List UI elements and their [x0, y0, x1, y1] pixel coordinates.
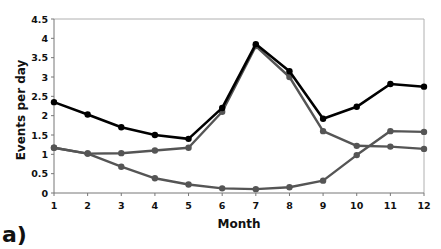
x-tick-label: 11 [384, 200, 397, 211]
y-tick-label: 2.5 [31, 91, 48, 102]
series-gray-b [51, 128, 427, 192]
y-tick-label: 1 [41, 149, 48, 160]
y-tick-label: 0 [41, 188, 48, 199]
y-tick-label: 4.5 [31, 14, 48, 25]
data-point-marker [51, 145, 57, 151]
data-point-marker [253, 186, 259, 192]
y-tick-label: 3 [41, 72, 48, 83]
data-point-marker [354, 104, 360, 110]
data-point-marker [387, 143, 393, 149]
series-black [51, 41, 427, 142]
x-tick-label: 7 [253, 200, 260, 211]
data-point-marker [387, 81, 393, 87]
data-point-marker [152, 175, 158, 181]
series-line [54, 131, 424, 189]
data-point-marker [84, 150, 90, 156]
series-gray-a [51, 43, 427, 157]
data-point-marker [421, 146, 427, 152]
plot-frame [54, 19, 424, 193]
data-point-marker [320, 116, 326, 122]
data-point-marker [219, 185, 225, 191]
data-point-marker [320, 128, 326, 134]
data-point-marker [118, 124, 124, 130]
data-point-marker [84, 111, 90, 117]
data-point-marker [354, 143, 360, 149]
data-point-marker [387, 128, 393, 134]
x-tick-label: 2 [84, 200, 91, 211]
data-point-marker [118, 164, 124, 170]
data-point-marker [421, 129, 427, 135]
data-point-marker [286, 68, 292, 74]
x-tick-label: 1 [51, 200, 58, 211]
data-point-marker [253, 41, 259, 47]
data-point-marker [185, 181, 191, 187]
series-line [54, 44, 424, 139]
data-point-marker [320, 177, 326, 183]
data-point-marker [354, 152, 360, 158]
data-point-marker [286, 184, 292, 190]
x-tick-label: 6 [219, 200, 226, 211]
x-axis-ticks: 123456789101112 [51, 193, 431, 211]
x-tick-label: 4 [152, 200, 159, 211]
y-tick-label: 3.5 [31, 52, 48, 63]
x-axis-title: Month [217, 217, 260, 231]
data-point-marker [51, 99, 57, 105]
y-axis-title: Events per day [14, 59, 28, 160]
x-tick-label: 12 [417, 200, 430, 211]
data-point-marker [152, 147, 158, 153]
x-tick-label: 3 [118, 200, 125, 211]
y-tick-label: 2 [41, 110, 48, 121]
x-tick-label: 10 [350, 200, 364, 211]
y-tick-label: 4 [41, 33, 48, 44]
panel-label: a) [2, 222, 27, 247]
y-tick-label: 1.5 [31, 130, 48, 141]
data-point-marker [421, 83, 427, 89]
line-chart: 00.511.522.533.544.5 123456789101112 Eve… [0, 0, 441, 249]
data-point-marker [185, 136, 191, 142]
x-tick-label: 9 [320, 200, 327, 211]
x-tick-label: 5 [185, 200, 192, 211]
data-point-marker [185, 145, 191, 151]
data-point-marker [219, 105, 225, 111]
data-point-marker [118, 150, 124, 156]
series-layer [51, 41, 427, 192]
data-point-marker [152, 132, 158, 138]
y-tick-label: 0.5 [31, 168, 48, 179]
y-axis-ticks: 00.511.522.533.544.5 [31, 14, 54, 199]
x-tick-label: 8 [286, 200, 293, 211]
